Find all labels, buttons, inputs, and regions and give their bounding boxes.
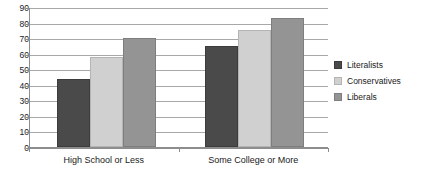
legend-swatch-icon bbox=[334, 61, 342, 69]
legend-item[interactable]: Liberals bbox=[334, 90, 401, 104]
legend-swatch-icon bbox=[334, 77, 342, 85]
legend-item[interactable]: Literalists bbox=[334, 58, 401, 72]
legend-label: Literalists bbox=[347, 61, 383, 70]
plot-area bbox=[29, 8, 328, 148]
x-axis-tick-mark bbox=[29, 148, 30, 152]
legend: LiteralistsConservativesLiberals bbox=[334, 58, 401, 106]
bar-group bbox=[57, 8, 156, 147]
bar bbox=[123, 38, 156, 147]
x-axis-tick-mark bbox=[328, 148, 329, 152]
bar bbox=[271, 18, 304, 147]
x-axis-category-label: High School or Less bbox=[29, 155, 179, 166]
legend-item[interactable]: Conservatives bbox=[334, 74, 401, 88]
x-axis-category-label: Some College or More bbox=[179, 155, 329, 166]
y-axis: 9080706050403020100 bbox=[0, 8, 29, 148]
legend-swatch-icon bbox=[334, 93, 342, 101]
legend-label: Liberals bbox=[347, 93, 377, 102]
bar-group bbox=[205, 8, 304, 147]
legend-label: Conservatives bbox=[347, 77, 401, 86]
bar bbox=[205, 46, 238, 147]
bar bbox=[57, 79, 90, 147]
bar bbox=[238, 30, 271, 147]
bar-chart: 9080706050403020100 High School or LessS… bbox=[0, 0, 421, 182]
bar bbox=[90, 57, 123, 147]
x-axis-tick-mark bbox=[179, 148, 180, 152]
